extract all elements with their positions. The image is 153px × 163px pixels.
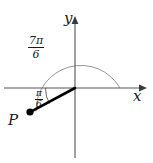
angle-label-7pi-6-numerator: 7π (28, 35, 44, 47)
angle-label-pi-6-numerator: π (35, 89, 43, 98)
point-p-label: P (8, 113, 18, 128)
angle-label-7pi-6-denominator: 6 (28, 49, 44, 61)
y-axis-arrowhead (72, 16, 79, 24)
angle-label-pi-6-denominator: 6 (35, 100, 43, 109)
y-axis-label: y (64, 11, 72, 26)
angle-label-7pi-6: 7π 6 (28, 35, 44, 60)
x-axis-label: x (133, 89, 141, 104)
diagram-canvas (0, 0, 153, 163)
point-p-marker (26, 108, 33, 115)
angle-label-pi-6: π 6 (35, 89, 43, 110)
angle-diagram-figure: y x P 7π 6 π 6 (0, 0, 153, 163)
